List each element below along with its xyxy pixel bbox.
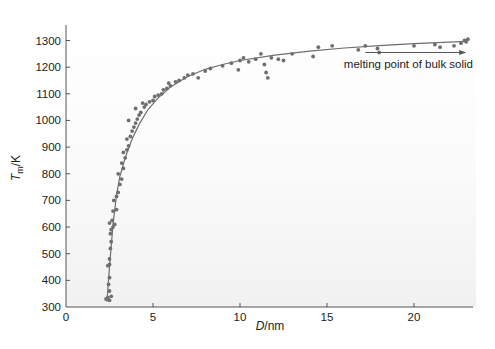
data-point: [363, 44, 367, 48]
data-point: [116, 191, 120, 195]
y-tick-label: 900: [42, 141, 61, 153]
data-point: [162, 88, 166, 92]
data-point: [238, 59, 242, 63]
data-point: [186, 73, 190, 77]
data-point: [125, 148, 129, 152]
data-point: [125, 137, 129, 141]
data-point: [203, 69, 207, 73]
data-point: [466, 37, 470, 41]
y-tick-label: 600: [42, 221, 61, 233]
y-tick-label: 1000: [35, 114, 61, 126]
data-point: [160, 92, 164, 96]
data-point: [177, 79, 181, 83]
data-point: [151, 99, 155, 103]
data-point: [109, 240, 113, 244]
data-point: [229, 61, 233, 65]
data-point: [263, 63, 267, 67]
y-tick-label: 800: [42, 168, 61, 180]
y-tick-label: 700: [42, 194, 61, 206]
data-point: [412, 44, 416, 48]
y-tick-label: 500: [42, 248, 61, 260]
data-point: [330, 44, 334, 48]
data-point: [120, 161, 124, 165]
y-tick-label: 1200: [35, 61, 61, 73]
x-axis-unit: /nm: [264, 319, 284, 333]
y-axis-sub: m: [15, 166, 25, 174]
data-point: [127, 144, 131, 148]
data-point: [167, 81, 171, 85]
data-point: [433, 43, 437, 47]
data-point: [264, 71, 268, 75]
data-point: [132, 125, 136, 129]
data-point: [134, 121, 138, 125]
data-point: [148, 100, 152, 104]
data-point: [118, 183, 122, 187]
data-point: [141, 101, 145, 105]
data-point: [127, 119, 131, 123]
data-point: [115, 195, 119, 199]
y-tick-label: 1100: [36, 88, 61, 100]
data-point: [311, 55, 315, 59]
data-point: [356, 48, 360, 52]
data-point: [109, 294, 113, 298]
x-tick-label: 20: [408, 311, 421, 323]
data-point: [196, 76, 200, 80]
data-point: [209, 67, 213, 71]
data-point: [290, 52, 294, 56]
data-point: [129, 135, 133, 139]
data-point: [316, 45, 320, 49]
data-point: [242, 56, 246, 60]
y-axis-title: Tm/K: [9, 155, 25, 181]
data-point: [459, 41, 463, 45]
y-tick-label: 400: [42, 274, 61, 286]
data-point: [130, 129, 134, 133]
y-tick-label: 1300: [35, 35, 61, 47]
x-axis-title: D/nm: [256, 319, 285, 333]
x-tick-label: 15: [321, 311, 334, 323]
data-point: [108, 298, 112, 302]
data-point: [109, 232, 113, 236]
data-point: [113, 223, 117, 227]
data-point: [174, 80, 178, 84]
data-point: [254, 57, 258, 61]
y-axis-unit: /K: [9, 155, 23, 166]
data-point: [110, 219, 114, 223]
data-point: [276, 57, 280, 61]
data-point: [122, 151, 126, 155]
data-point: [259, 52, 263, 56]
data-point: [247, 60, 251, 64]
data-point: [282, 59, 286, 63]
data-point: [266, 76, 270, 80]
data-point: [156, 93, 160, 97]
data-point: [452, 44, 456, 48]
data-point: [111, 209, 115, 213]
data-point: [109, 247, 113, 251]
data-point: [191, 72, 195, 76]
data-point: [221, 64, 225, 68]
y-tick-label: 300: [42, 301, 61, 313]
data-point: [122, 167, 126, 171]
data-point: [134, 107, 138, 111]
data-point: [269, 56, 273, 60]
data-point: [116, 172, 120, 176]
data-point: [135, 117, 139, 121]
data-point: [139, 111, 143, 115]
x-tick-label: 10: [234, 311, 247, 323]
data-point: [108, 289, 112, 293]
data-point: [120, 177, 124, 181]
data-point: [115, 208, 119, 212]
data-point: [108, 276, 112, 280]
data-point: [107, 282, 111, 286]
data-point: [144, 103, 148, 107]
x-tick-label: 0: [63, 311, 69, 323]
data-point: [463, 39, 467, 43]
data-point: [236, 68, 240, 72]
data-point: [165, 87, 169, 91]
annotation-text: melting point of bulk solid: [344, 58, 473, 70]
x-tick-label: 5: [150, 311, 156, 323]
data-point: [108, 257, 112, 261]
data-point: [153, 95, 157, 99]
data-point: [108, 263, 112, 267]
data-point: [438, 45, 442, 49]
x-axis-var: D: [256, 319, 265, 333]
